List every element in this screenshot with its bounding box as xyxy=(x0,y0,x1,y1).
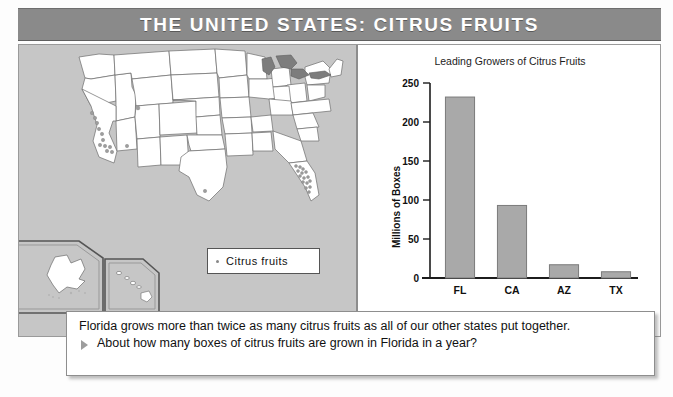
bar-az xyxy=(549,265,578,278)
page-root: THE UNITED STATES: CITRUS FRUITS xyxy=(0,0,673,397)
hawaii-inset xyxy=(105,259,159,313)
state-west-virginia xyxy=(307,85,325,101)
state-washington xyxy=(79,54,115,79)
page-title-band: THE UNITED STATES: CITRUS FRUITS xyxy=(18,8,661,41)
bar-ca xyxy=(497,205,526,278)
y-axis-tick-label: 100 xyxy=(402,195,419,206)
alaska-shape xyxy=(47,255,85,293)
state-new-england xyxy=(329,59,343,77)
state-north-carolina xyxy=(293,113,319,129)
x-axis-label-ca: CA xyxy=(504,284,520,296)
state-arkansas xyxy=(222,117,252,134)
caption-question: About how many boxes of citrus fruits ar… xyxy=(97,336,477,351)
state-south-carolina xyxy=(297,127,319,141)
state-mississippi-alabama xyxy=(252,132,273,151)
x-axis-label-az: AZ xyxy=(557,284,572,296)
y-axis-tick-label: 200 xyxy=(402,117,419,128)
state-kansas xyxy=(196,115,222,135)
caption-question-row: About how many boxes of citrus fruits ar… xyxy=(79,336,644,351)
chart-panel: Leading Growers of Citrus Fruits Million… xyxy=(360,45,660,336)
state-kentucky xyxy=(269,99,293,115)
bar-tx xyxy=(601,272,630,278)
y-axis-tick-label: 150 xyxy=(402,156,419,167)
bar-series xyxy=(445,97,630,278)
united-states-map xyxy=(19,45,358,336)
y-axis-tick-label: 250 xyxy=(402,78,419,89)
state-iowa xyxy=(219,75,249,98)
triangle-right-icon xyxy=(81,340,88,350)
state-oklahoma xyxy=(187,135,225,151)
y-axis-tick-label: 0 xyxy=(413,273,419,284)
state-minnesota xyxy=(215,49,247,78)
map-legend: Citrus fruits xyxy=(207,248,320,274)
state-texas xyxy=(179,149,227,201)
state-missouri xyxy=(220,97,251,118)
hawaii-shape xyxy=(116,271,152,302)
caption-statement: Florida grows more than twice as many ci… xyxy=(79,319,644,334)
bar-chart: 050100150200250 FLCAAZTX xyxy=(360,45,660,336)
state-louisiana xyxy=(225,133,253,156)
page-title: THE UNITED STATES: CITRUS FRUITS xyxy=(140,14,539,36)
state-michigan-lower xyxy=(271,67,291,87)
x-axis-labels: FLCAAZTX xyxy=(454,284,623,296)
alaska-inset xyxy=(19,241,103,313)
x-axis-label-tx: TX xyxy=(609,284,622,296)
state-colorado xyxy=(159,101,197,135)
content-panel: Citrus fruits Leading Growers of Citrus … xyxy=(18,44,661,337)
map-panel: Citrus fruits xyxy=(19,45,358,336)
caption-box: Florida grows more than twice as many ci… xyxy=(66,311,655,376)
state-wyoming xyxy=(132,75,173,106)
state-north-dakota xyxy=(169,49,217,75)
citrus-dot-icon xyxy=(216,260,219,263)
x-axis-label-fl: FL xyxy=(454,284,467,296)
y-axis-tick-label: 50 xyxy=(408,234,420,245)
bar-fl xyxy=(445,97,474,278)
state-arizona xyxy=(137,137,161,167)
map-legend-label: Citrus fruits xyxy=(226,255,288,267)
state-tennessee xyxy=(251,115,273,132)
state-south-dakota xyxy=(171,73,219,100)
y-axis-ticks: 050100150200250 xyxy=(402,78,430,284)
